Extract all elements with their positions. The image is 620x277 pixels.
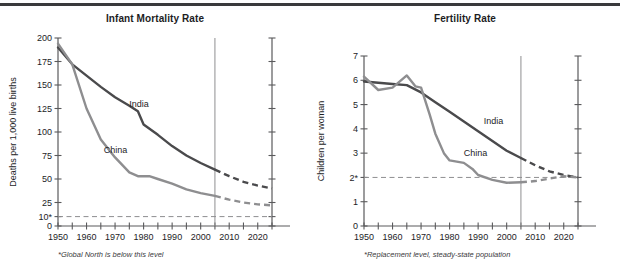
y-axis-title: Children per woman — [316, 101, 326, 182]
series-label-india: India — [484, 116, 504, 126]
x-tick-label: 1970 — [105, 232, 125, 242]
y-tick-label: 0 — [47, 221, 52, 231]
x-tick-label: 2020 — [248, 232, 268, 242]
x-tick-label: 1980 — [440, 232, 460, 242]
chart-panel-fertility-rate: Fertility Rate 012*345671950196019701980… — [310, 0, 620, 277]
y-tick-label: 2* — [349, 173, 358, 183]
y-tick-label: 3 — [353, 148, 358, 158]
chart-svg-infant-mortality: 010*255075100125150175200195019601970198… — [0, 26, 310, 246]
y-tick-label: 150 — [37, 80, 52, 90]
series-line-china — [58, 44, 215, 196]
series-label-india: India — [129, 99, 149, 109]
x-tick-label: 1990 — [162, 232, 182, 242]
series-line-china — [364, 75, 521, 182]
chart-title-fertility-rate: Fertility Rate — [310, 13, 620, 24]
x-tick-label: 2020 — [554, 232, 574, 242]
y-tick-label: 10* — [38, 212, 52, 222]
chart-panel-infant-mortality: Infant Mortality Rate 010*25507510012515… — [0, 0, 310, 277]
x-tick-label: 2000 — [191, 232, 211, 242]
x-tick-label: 1950 — [354, 232, 374, 242]
y-tick-label: 100 — [37, 127, 52, 137]
y-tick-label: 1 — [353, 197, 358, 207]
series-label-china: China — [104, 145, 128, 155]
chart-title-infant-mortality: Infant Mortality Rate — [0, 13, 310, 24]
x-tick-label: 1980 — [134, 232, 154, 242]
y-tick-label: 7 — [353, 51, 358, 61]
x-tick-label: 1970 — [411, 232, 431, 242]
x-tick-label: 2010 — [219, 232, 239, 242]
y-tick-label: 175 — [37, 57, 52, 67]
x-tick-label: 2010 — [525, 232, 545, 242]
y-tick-label: 75 — [42, 151, 52, 161]
x-tick-label: 1990 — [468, 232, 488, 242]
chart-footnote-fertility-rate: *Replacement level, steady-state populat… — [310, 250, 620, 259]
y-tick-label: 0 — [353, 221, 358, 231]
y-tick-label: 6 — [353, 75, 358, 85]
y-tick-label: 50 — [42, 174, 52, 184]
y-tick-label: 4 — [353, 124, 358, 134]
y-tick-label: 125 — [37, 104, 52, 114]
series-projection-india — [215, 170, 272, 189]
y-tick-label: 25 — [42, 198, 52, 208]
series-projection-india — [521, 158, 578, 177]
x-tick-label: 1950 — [48, 232, 68, 242]
chart-svg-fertility-rate: 012*345671950196019701980199020002010202… — [310, 26, 620, 246]
y-tick-label: 200 — [37, 33, 52, 43]
x-tick-label: 1960 — [77, 232, 97, 242]
series-projection-china — [215, 196, 272, 205]
x-tick-label: 1960 — [383, 232, 403, 242]
x-tick-label: 2000 — [497, 232, 517, 242]
y-tick-label: 5 — [353, 100, 358, 110]
y-axis-title: Deaths per 1,000 live births — [8, 77, 18, 187]
series-label-china: China — [464, 148, 488, 158]
